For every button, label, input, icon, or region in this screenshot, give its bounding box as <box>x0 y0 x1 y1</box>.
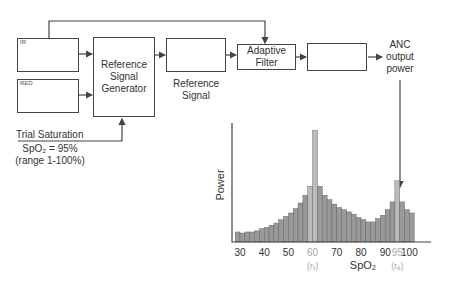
bar <box>400 202 405 242</box>
bar <box>274 223 279 242</box>
bar <box>405 210 410 242</box>
bar <box>269 225 274 242</box>
bar <box>385 210 390 242</box>
peak-annotation: (rₑ) <box>391 261 403 271</box>
bar <box>361 220 366 242</box>
bar <box>250 232 255 242</box>
bar <box>264 228 269 242</box>
bar <box>390 202 395 242</box>
bar <box>409 213 414 242</box>
bar <box>240 233 245 242</box>
bar <box>303 195 308 242</box>
x-tick-label: 60 <box>307 247 319 258</box>
x-tick-label: 50 <box>283 247 295 258</box>
x-axis-label: SpO₂ <box>350 259 376 271</box>
peak-annotation: (rᵥ) <box>307 261 319 271</box>
bar <box>356 217 361 242</box>
bar <box>371 222 376 242</box>
x-tick-label: 80 <box>355 247 367 258</box>
bar <box>332 204 337 242</box>
bar <box>255 231 260 242</box>
x-tick-label: 90 <box>380 247 392 258</box>
bar <box>327 200 332 242</box>
bar <box>259 229 264 242</box>
anc-diagram: IR RED Reference Signal Generator Refere… <box>0 0 451 281</box>
y-axis-label: Power <box>214 169 226 201</box>
x-tick-label: 40 <box>259 247 271 258</box>
bar <box>376 219 381 242</box>
bar <box>395 181 400 242</box>
bar <box>342 210 347 242</box>
x-tick-label: 70 <box>331 247 343 258</box>
bar <box>351 214 356 242</box>
bar <box>298 203 303 242</box>
bar <box>288 213 293 242</box>
bar <box>380 215 385 242</box>
bar <box>346 212 351 242</box>
bar <box>308 186 313 242</box>
bar <box>293 209 298 242</box>
bar <box>322 195 327 242</box>
x-tick-label: 30 <box>234 247 246 258</box>
bar <box>235 232 240 242</box>
bar <box>337 207 342 242</box>
x-tick-label: 100 <box>401 247 418 258</box>
bar <box>279 220 284 242</box>
bar <box>317 186 322 242</box>
bar <box>313 131 318 242</box>
bar <box>245 232 250 242</box>
bar <box>366 222 371 242</box>
bar <box>284 216 289 242</box>
power-spectrum-chart: 30405060(rᵥ)70809095(rₑ)100SpO₂Power <box>0 0 451 281</box>
